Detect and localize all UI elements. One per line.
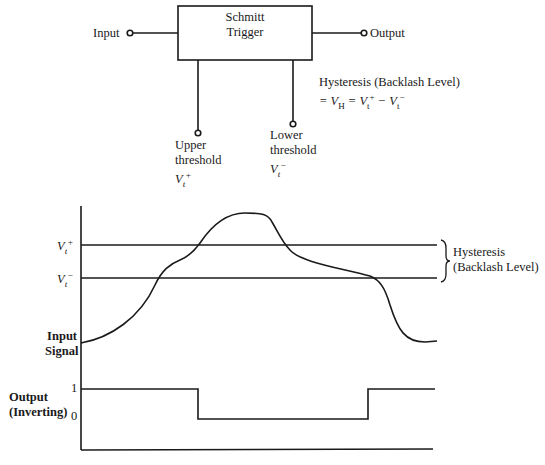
input-signal-label: Input Signal	[45, 329, 77, 359]
lower-threshold-line1: Lower	[270, 128, 317, 143]
hysteresis-brace-icon	[441, 240, 450, 282]
block-label-line2: Trigger	[205, 25, 285, 40]
diagram-canvas	[0, 0, 545, 465]
vt-minus-label: Vt−	[57, 268, 73, 292]
output-waveform	[81, 389, 435, 419]
upper-threshold-line2: threshold	[175, 153, 222, 168]
hysteresis-definition: Hysteresis (Backlash Level) = VH = Vt+ −…	[319, 75, 460, 114]
hysteresis-brace-line2: (Backlash Level)	[453, 260, 539, 275]
vt-plus-label: Vt+	[57, 235, 73, 259]
hysteresis-title: Hysteresis (Backlash Level)	[319, 75, 460, 90]
output-label: Output	[370, 26, 405, 41]
hysteresis-equation: = VH = Vt+ − Vt−	[319, 90, 460, 114]
upper-threshold-line1: Upper	[175, 138, 222, 153]
hysteresis-brace-label: Hysteresis (Backlash Level)	[453, 245, 539, 275]
input-label: Input	[93, 26, 119, 41]
output-inverting-label: Output (Inverting)	[9, 390, 67, 420]
upper-threshold-label: Upper threshold Vt+	[175, 138, 222, 192]
x-axis	[81, 449, 433, 450]
output-terminal-icon	[361, 30, 367, 36]
block-label-line1: Schmitt	[205, 10, 285, 25]
input-terminal-icon	[127, 30, 133, 36]
upper-threshold-symbol: Vt+	[175, 168, 222, 192]
lower-threshold-line2: threshold	[270, 143, 317, 158]
lower-threshold-symbol: Vt−	[270, 158, 317, 182]
hysteresis-brace-line1: Hysteresis	[453, 245, 539, 260]
block-label: Schmitt Trigger	[205, 10, 285, 40]
output-label-line2: (Inverting)	[9, 405, 67, 420]
output-level-high: 1	[71, 381, 77, 396]
lower-threshold-terminal-icon	[290, 121, 296, 127]
lower-threshold-label: Lower threshold Vt−	[270, 128, 317, 182]
upper-threshold-terminal-icon	[195, 130, 201, 136]
input-signal-line1: Input	[45, 329, 77, 344]
output-label-line1: Output	[9, 390, 67, 405]
input-signal-line2: Signal	[45, 344, 77, 359]
output-level-low: 0	[71, 409, 77, 424]
